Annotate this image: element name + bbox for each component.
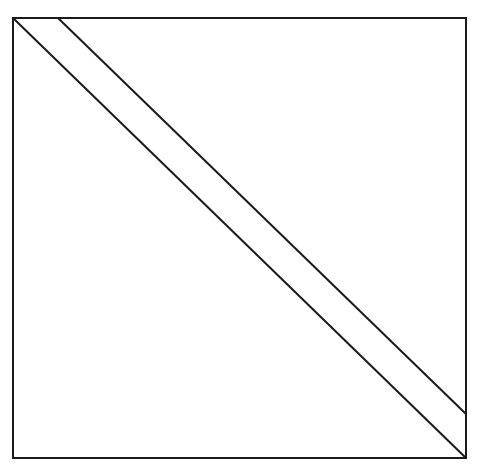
offset-diagonal-line [58, 18, 466, 414]
diagram-canvas [0, 0, 487, 469]
main-diagonal-line [13, 18, 466, 458]
